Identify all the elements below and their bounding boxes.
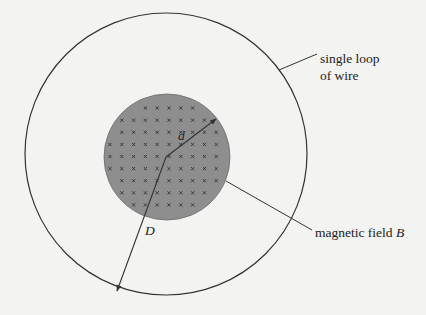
wire-loop-label-line1: single loop <box>320 50 380 67</box>
wire-loop-label-line2: of wire <box>320 67 380 84</box>
wire-loop-leader-line <box>279 54 317 70</box>
loop-and-field-diagram <box>0 0 426 315</box>
radius-D-label: D <box>145 222 155 239</box>
magnetic-field-label: magnetic field B <box>315 224 404 241</box>
wire-loop-label: single loop of wire <box>320 50 380 84</box>
magnetic-field-symbol: B <box>396 225 404 240</box>
magnetic-field-label-text: magnetic field <box>315 225 396 240</box>
radius-d-label: d <box>178 127 185 144</box>
field-leader-line <box>226 181 312 230</box>
